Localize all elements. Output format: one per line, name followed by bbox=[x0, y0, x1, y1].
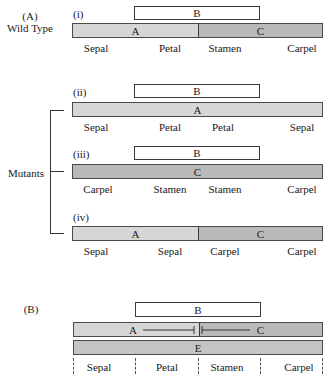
organ-label: Petal bbox=[156, 361, 178, 373]
e-function-bar: E bbox=[73, 340, 323, 355]
inhibition-arrows-icon bbox=[0, 0, 333, 387]
whorl-boundary bbox=[198, 358, 199, 374]
whorl-boundary bbox=[73, 358, 74, 374]
e-label: E bbox=[195, 342, 202, 354]
e-segment: E bbox=[74, 341, 322, 354]
whorl-boundary bbox=[135, 358, 136, 374]
whorl-boundary bbox=[322, 358, 323, 374]
organ-label: Sepal bbox=[87, 361, 111, 373]
organ-label: Carpel bbox=[284, 361, 313, 373]
whorl-boundary bbox=[260, 358, 261, 374]
organ-label: Stamen bbox=[211, 361, 244, 373]
